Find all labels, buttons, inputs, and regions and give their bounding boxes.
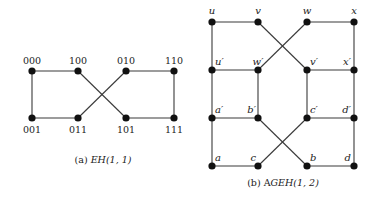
figure-a-caption-prefix: (a) bbox=[75, 154, 91, 165]
label-b-prime: b′ bbox=[247, 104, 256, 115]
label-110: 110 bbox=[165, 55, 183, 66]
label-x-prime: x′ bbox=[343, 56, 352, 67]
b-node-u2 bbox=[208, 66, 215, 73]
b-node-w bbox=[303, 18, 310, 25]
label-d: d bbox=[345, 152, 351, 163]
a-node-n011 bbox=[74, 114, 81, 121]
b-node-v bbox=[254, 18, 261, 25]
b-node-b2 bbox=[254, 114, 261, 121]
figure-b-caption-prefix: (b) A bbox=[247, 177, 271, 188]
figure-a-edges bbox=[32, 71, 174, 118]
label-111: 111 bbox=[165, 124, 183, 135]
label-x: x bbox=[351, 5, 357, 16]
b-node-x bbox=[350, 18, 357, 25]
figure-b-edges bbox=[212, 22, 354, 166]
a-node-n000 bbox=[28, 67, 35, 74]
b-node-v2 bbox=[303, 66, 310, 73]
b-node-c2 bbox=[303, 114, 310, 121]
label-u: u bbox=[209, 5, 215, 16]
label-w: w bbox=[303, 5, 312, 16]
b-node-a bbox=[208, 162, 215, 169]
b-node-w2 bbox=[254, 66, 261, 73]
label-a-prime: a′ bbox=[215, 104, 224, 115]
figure-a-nodes bbox=[28, 67, 177, 121]
b-node-u bbox=[208, 18, 215, 25]
a-node-n110 bbox=[170, 67, 177, 74]
b-node-x2 bbox=[350, 66, 357, 73]
label-101: 101 bbox=[117, 124, 135, 135]
label-010: 010 bbox=[117, 55, 135, 66]
b-node-d2 bbox=[350, 114, 357, 121]
figure-b-nodes bbox=[208, 18, 357, 169]
figure-b-ageh-1-2: u v w x u′ w′ v′ x′ a′ b′ c′ d′ a c b d … bbox=[208, 5, 357, 188]
figure-a-caption-math: EH(1, 1) bbox=[90, 154, 132, 165]
b-node-d bbox=[350, 162, 357, 169]
label-v-prime: v′ bbox=[310, 56, 319, 67]
figure-a-caption: (a) EH(1, 1) bbox=[75, 154, 132, 165]
b-node-c bbox=[254, 162, 261, 169]
label-b: b bbox=[310, 152, 316, 163]
label-011: 011 bbox=[69, 124, 87, 135]
b-node-a2 bbox=[208, 114, 215, 121]
a-node-n010 bbox=[122, 67, 129, 74]
label-a: a bbox=[215, 152, 221, 163]
figure-b-labels: u v w x u′ w′ v′ x′ a′ b′ c′ d′ a c b d bbox=[209, 5, 357, 163]
label-c-prime: c′ bbox=[310, 104, 319, 115]
a-node-n100 bbox=[74, 67, 81, 74]
figure-b-caption: (b) AGEH(1, 2) bbox=[247, 177, 319, 188]
label-w-prime: w′ bbox=[253, 56, 265, 67]
label-v: v bbox=[255, 5, 261, 16]
a-node-n111 bbox=[170, 114, 177, 121]
figure-b-caption-math: GEH(1, 2) bbox=[271, 177, 320, 188]
a-node-n101 bbox=[122, 114, 129, 121]
b-node-b bbox=[303, 162, 310, 169]
label-c: c bbox=[250, 152, 256, 163]
label-u-prime: u′ bbox=[215, 56, 224, 67]
figure-a-eh-1-1: 000 100 010 110 001 011 101 111 (a) EH(1… bbox=[23, 55, 183, 165]
label-001: 001 bbox=[23, 124, 41, 135]
label-d-prime: d′ bbox=[342, 104, 351, 115]
diagram-canvas: 000 100 010 110 001 011 101 111 (a) EH(1… bbox=[0, 0, 377, 198]
label-000: 000 bbox=[23, 55, 41, 66]
a-node-n001 bbox=[28, 114, 35, 121]
label-100: 100 bbox=[69, 55, 87, 66]
